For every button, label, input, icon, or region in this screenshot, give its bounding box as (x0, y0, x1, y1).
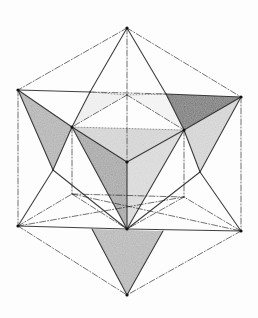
dashdot-edge (184, 197, 241, 231)
vertex-dot (125, 160, 128, 163)
vertex-dot (70, 125, 73, 128)
vertex-dot (239, 95, 242, 98)
solid-edge (18, 170, 53, 226)
vertex-dot (125, 26, 128, 29)
shaded-face (92, 229, 163, 295)
vertex-dot (239, 229, 242, 232)
solid-edge (127, 28, 166, 94)
dashdot-edge (18, 197, 184, 226)
vertex-dot (182, 128, 185, 131)
solid-edge (18, 90, 90, 92)
drawing-canvas (0, 0, 258, 318)
dashdot-edge (18, 28, 127, 90)
vertex-dot (125, 227, 128, 230)
shaded-face (72, 92, 127, 127)
vertex-dot (16, 88, 19, 91)
shaded-faces (18, 90, 241, 295)
vertex-dot (125, 293, 128, 296)
star-tetrahedron-figure (0, 0, 258, 318)
shaded-face (18, 90, 72, 170)
vertex-dot (16, 224, 19, 227)
solid-edge (18, 226, 127, 229)
solid-edge (90, 28, 127, 92)
dashdot-edge (127, 28, 241, 97)
solid-edge (200, 172, 241, 231)
